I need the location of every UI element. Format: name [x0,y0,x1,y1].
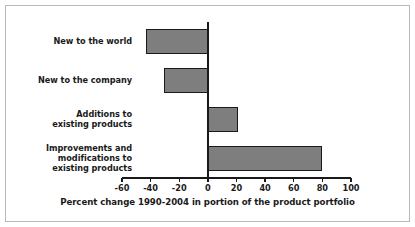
chart-figure: New to the worldNew to the companyAdditi… [0,0,415,227]
bar-2 [208,107,238,132]
category-label-line: Additions to [14,109,132,119]
x-axis-title: Percent change 1990-2004 in portion of t… [0,197,415,207]
x-tick--40 [150,178,151,182]
x-tick-0 [207,178,208,182]
x-tick--60 [121,178,122,182]
category-label-line: existing products [14,119,132,129]
bar-1 [164,68,208,93]
bar-3 [208,146,323,171]
category-label-3: Improvements andmodifications toexisting… [14,143,132,174]
x-tick-80 [322,178,323,182]
category-label-line: existing products [14,163,132,173]
category-label-line: Improvements and [14,143,132,153]
x-tick-100 [350,178,351,182]
category-axis-labels: New to the worldNew to the companyAdditi… [14,22,132,177]
category-label-0: New to the world [14,36,132,46]
plot-area: New to the worldNew to the companyAdditi… [0,0,415,227]
x-tick-20 [236,178,237,182]
x-tick-label-100: 100 [331,183,371,193]
category-label-line: New to the company [14,75,132,85]
category-label-line: New to the world [14,36,132,46]
x-tick-40 [264,178,265,182]
bar-0 [146,29,208,54]
x-tick--20 [179,178,180,182]
x-tick-60 [293,178,294,182]
category-label-2: Additions toexisting products [14,109,132,130]
category-label-1: New to the company [14,75,132,85]
category-label-line: modifications to [14,153,132,163]
